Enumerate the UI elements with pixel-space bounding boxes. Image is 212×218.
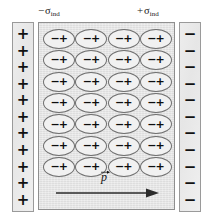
plate-charge-minus: − [184, 111, 197, 123]
dipole-positive-end: + [59, 56, 68, 64]
dipole: −+ [108, 29, 140, 49]
negative-induced-charge-label: −σind [38, 5, 60, 18]
dipole-positive-end: + [123, 163, 132, 171]
polarization-vector: p [55, 171, 160, 201]
dielectric-slab: −+−+−+−+−+−+−+−+−+−+−+−+−+−+−+−+−+−+−+−+… [38, 22, 175, 210]
dipole-positive-end: + [155, 99, 164, 107]
dipole-positive-end: + [59, 35, 68, 43]
plate-charge-minus: − [184, 127, 197, 139]
dipole-positive-end: + [123, 78, 132, 86]
dipole-positive-end: + [91, 163, 100, 171]
plate-charge-plus: + [17, 45, 30, 57]
dipole: −+ [108, 72, 140, 92]
p-vector-label: p [101, 171, 107, 183]
negative-plate: −−−−−−−−−−− [179, 22, 201, 212]
plate-charge-plus: + [17, 78, 30, 90]
dipole: −+ [108, 136, 140, 156]
dipole-positive-end: + [123, 142, 132, 150]
dipole-positive-end: + [59, 163, 68, 171]
plate-charge-minus: − [184, 61, 197, 73]
dipole: −+ [75, 29, 107, 49]
dipole: −+ [75, 50, 107, 70]
dipole: −+ [75, 72, 107, 92]
plate-charge-plus: + [17, 111, 30, 123]
dipole: −+ [140, 114, 172, 134]
plate-charge-minus: − [184, 78, 197, 90]
dipole-positive-end: + [59, 99, 68, 107]
plate-charge-minus: − [184, 94, 197, 106]
dipole-positive-end: + [155, 78, 164, 86]
plate-charge-plus: + [17, 177, 30, 189]
sigma-subscript: ind [150, 10, 159, 18]
plate-charge-plus: + [17, 28, 30, 40]
plate-charge-plus: + [17, 144, 30, 156]
dipole-positive-end: + [155, 56, 164, 64]
polarization-arrow-icon [55, 187, 160, 199]
plate-charge-plus: + [17, 161, 30, 173]
vector-arrow-icon [101, 169, 110, 174]
dipole-positive-end: + [123, 35, 132, 43]
dipole-positive-end: + [123, 121, 132, 129]
dipole-positive-end: + [123, 99, 132, 107]
dipole-positive-end: + [91, 142, 100, 150]
dipole: −+ [43, 29, 75, 49]
dipole-positive-end: + [91, 99, 100, 107]
dipole: −+ [140, 50, 172, 70]
dipole: −+ [43, 50, 75, 70]
dipole-positive-end: + [91, 78, 100, 86]
dipole-positive-end: + [155, 35, 164, 43]
dipole: −+ [43, 136, 75, 156]
dipole-positive-end: + [91, 56, 100, 64]
dipole: −+ [43, 93, 75, 113]
dipole: −+ [140, 29, 172, 49]
plate-charge-plus: + [17, 61, 30, 73]
plus-sign-glyph: + [137, 4, 144, 16]
dipole: −+ [140, 72, 172, 92]
dipole: −+ [75, 93, 107, 113]
dipole-positive-end: + [59, 121, 68, 129]
plate-charge-minus: − [184, 45, 197, 57]
plate-charge-minus: − [184, 28, 197, 40]
dipole-positive-end: + [91, 35, 100, 43]
dipole-positive-end: + [155, 121, 164, 129]
plate-charge-plus: + [17, 194, 30, 206]
dipole: −+ [140, 136, 172, 156]
plate-charge-plus: + [17, 94, 30, 106]
dipole-positive-end: + [123, 56, 132, 64]
dipole-positive-end: + [91, 121, 100, 129]
sigma-subscript: ind [51, 10, 60, 18]
plate-charge-minus: − [184, 177, 197, 189]
dipole-positive-end: + [59, 142, 68, 150]
positive-induced-charge-label: +σind [137, 5, 159, 18]
minus-sign-glyph: − [38, 4, 45, 16]
dipole-positive-end: + [155, 142, 164, 150]
dipole-grid: −+−+−+−+−+−+−+−+−+−+−+−+−+−+−+−+−+−+−+−+… [43, 28, 172, 178]
dipole: −+ [43, 114, 75, 134]
dipole: −+ [108, 50, 140, 70]
plate-charge-plus: + [17, 127, 30, 139]
dipole: −+ [108, 114, 140, 134]
positive-plate: +++++++++++ [12, 22, 34, 212]
plate-charge-minus: − [184, 144, 197, 156]
dipole-positive-end: + [155, 163, 164, 171]
dipole: −+ [108, 93, 140, 113]
dielectric-polarization-figure: −σind +σind +++++++++++ −−−−−−−−−−− −+−+… [0, 0, 212, 218]
dipole: −+ [43, 72, 75, 92]
dipole: −+ [75, 136, 107, 156]
plate-charge-minus: − [184, 194, 197, 206]
dipole-positive-end: + [59, 78, 68, 86]
dipole: −+ [75, 114, 107, 134]
dipole: −+ [140, 93, 172, 113]
plate-charge-minus: − [184, 161, 197, 173]
